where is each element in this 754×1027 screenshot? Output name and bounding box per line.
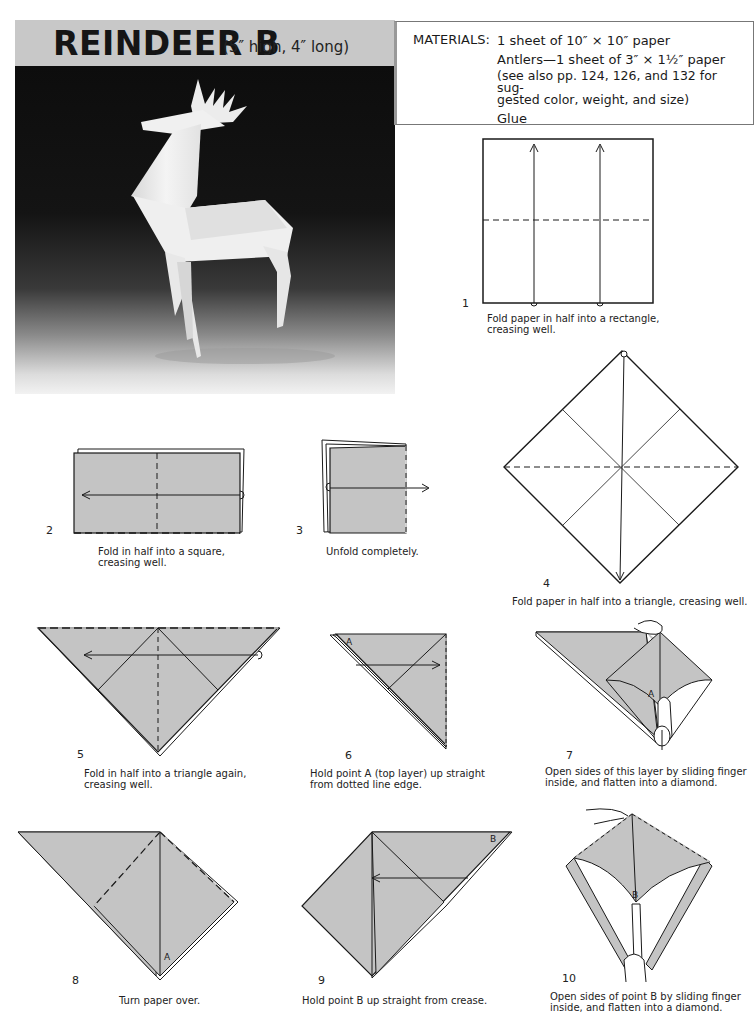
title-band: REINDEER B (5″ high, 4″ long) xyxy=(15,20,395,66)
material-item: Glue xyxy=(497,110,747,127)
point-b-label: B xyxy=(632,890,638,900)
step-caption: Hold point B up straight from crease. xyxy=(302,995,487,1006)
step-10-diagram: B xyxy=(566,812,716,982)
step-caption: Fold paper in half into a rectangle, cre… xyxy=(487,313,659,335)
material-note: (see also pp. 124, 126, and 132 for sug-… xyxy=(497,70,747,106)
materials-list: 1 sheet of 10″ × 10″ paper Antlers—1 she… xyxy=(497,32,747,129)
step-caption: Hold point A (top layer) up straight fro… xyxy=(310,768,485,790)
step-caption: Fold paper in half into a triangle, crea… xyxy=(512,596,747,607)
step-8-diagram: A xyxy=(16,830,238,982)
model-dimensions: (5″ high, 4″ long) xyxy=(223,38,349,56)
material-item: 1 sheet of 10″ × 10″ paper xyxy=(497,32,747,49)
point-a-label: A xyxy=(346,637,353,647)
materials-label: MATERIALS: xyxy=(413,32,490,47)
origami-reindeer-illustration xyxy=(15,66,395,394)
step-caption: Fold in half into a square, creasing wel… xyxy=(98,546,225,568)
step-number: 4 xyxy=(543,577,550,590)
step-number: 9 xyxy=(318,974,325,987)
step-number: 10 xyxy=(562,972,576,985)
step-3-diagram xyxy=(320,438,435,536)
step-caption: Turn paper over. xyxy=(119,995,200,1006)
point-a-label: A xyxy=(164,952,171,962)
step-caption: Unfold completely. xyxy=(326,546,419,557)
step-caption: Fold in half into a triangle again, crea… xyxy=(84,768,246,790)
step-number: 5 xyxy=(77,748,84,761)
step-number: 6 xyxy=(345,749,352,762)
step-number: 3 xyxy=(296,524,303,537)
step-number: 7 xyxy=(566,749,573,762)
step-caption: Open sides of this layer by sliding fing… xyxy=(545,766,747,788)
step-number: 2 xyxy=(46,524,53,537)
point-a-label: A xyxy=(648,689,655,699)
step-7-diagram: A xyxy=(534,618,716,758)
step-caption: Open sides of point B by sliding finger … xyxy=(550,991,741,1013)
step-number: 8 xyxy=(72,974,79,987)
step-2-diagram xyxy=(72,448,248,536)
step-5-diagram xyxy=(36,626,282,758)
material-item: Antlers—1 sheet of 3″ × 1½″ paper xyxy=(497,51,747,68)
step-1-diagram xyxy=(482,138,657,306)
step-4-diagram xyxy=(502,350,742,586)
step-9-diagram: B xyxy=(300,830,514,982)
point-b-label: B xyxy=(490,834,496,844)
reindeer-photo xyxy=(15,66,395,394)
materials-box: MATERIALS: 1 sheet of 10″ × 10″ paper An… xyxy=(394,21,754,125)
step-number: 1 xyxy=(462,297,469,310)
step-6-diagram: A xyxy=(328,633,450,751)
